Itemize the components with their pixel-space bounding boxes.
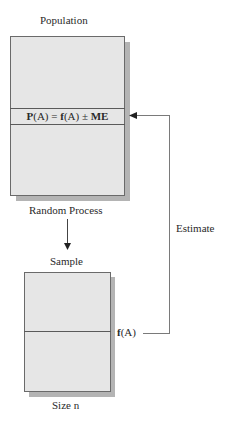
- sample-box: [24, 272, 111, 392]
- down-arrow-line: [67, 219, 68, 245]
- sample-title: Sample: [50, 255, 83, 267]
- population-title: Population: [40, 14, 88, 26]
- feedback-line-vertical: [169, 115, 170, 334]
- formula-a2: (A) ±: [64, 110, 91, 122]
- left-arrow-icon: [129, 112, 137, 119]
- formula-me: ME: [91, 110, 109, 122]
- population-formula: P(A) = f(A) ± ME: [10, 109, 125, 124]
- population-row-bottom-divider: [10, 124, 125, 125]
- feedback-line-top: [134, 115, 170, 116]
- size-n-caption: Size n: [52, 399, 79, 411]
- feedback-line-bottom: [143, 333, 170, 334]
- sample-statistic: f(A): [117, 326, 136, 338]
- estimate-label: Estimate: [176, 222, 215, 234]
- formula-a1: (A) =: [33, 110, 60, 122]
- random-process-caption: Random Process: [29, 204, 103, 216]
- statistic-a: (A): [121, 326, 136, 338]
- down-arrow-icon: [64, 243, 71, 250]
- sample-row-divider: [24, 331, 111, 332]
